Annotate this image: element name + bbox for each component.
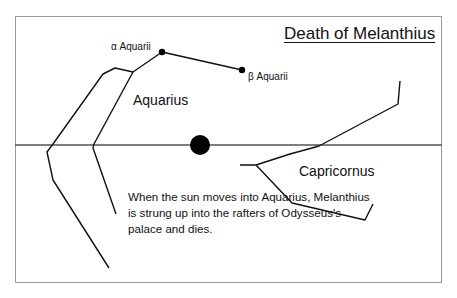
beta-aquarii-star xyxy=(239,67,245,73)
beta-aquarii-label: β Aquarii xyxy=(248,71,288,82)
capricornus-line-upper xyxy=(240,81,400,165)
capricornus-label: Capricornus xyxy=(299,163,374,179)
aquarius-label: Aquarius xyxy=(133,92,188,108)
alpha-aquarii-star xyxy=(159,49,165,55)
sun-icon xyxy=(190,135,210,155)
aquarius-line-inner xyxy=(93,72,133,214)
caption-text: When the sun moves into Aquarius, Melant… xyxy=(128,189,378,237)
aquarius-line-alpha-beta xyxy=(162,52,242,70)
diagram-title: Death of Melanthius xyxy=(284,24,435,44)
sky-diagram xyxy=(0,0,457,298)
alpha-aquarii-label: α Aquarii xyxy=(111,41,151,52)
